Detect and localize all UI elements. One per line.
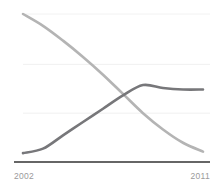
line-chart: 2002 2011 xyxy=(0,0,221,189)
series-line-declining xyxy=(23,14,203,152)
chart-plot-area xyxy=(0,0,221,189)
x-axis-tick-label-end: 2011 xyxy=(191,172,210,181)
data-series-group xyxy=(23,14,203,153)
x-axis-tick-label-start: 2002 xyxy=(14,172,34,181)
series-line-rising xyxy=(23,85,203,153)
